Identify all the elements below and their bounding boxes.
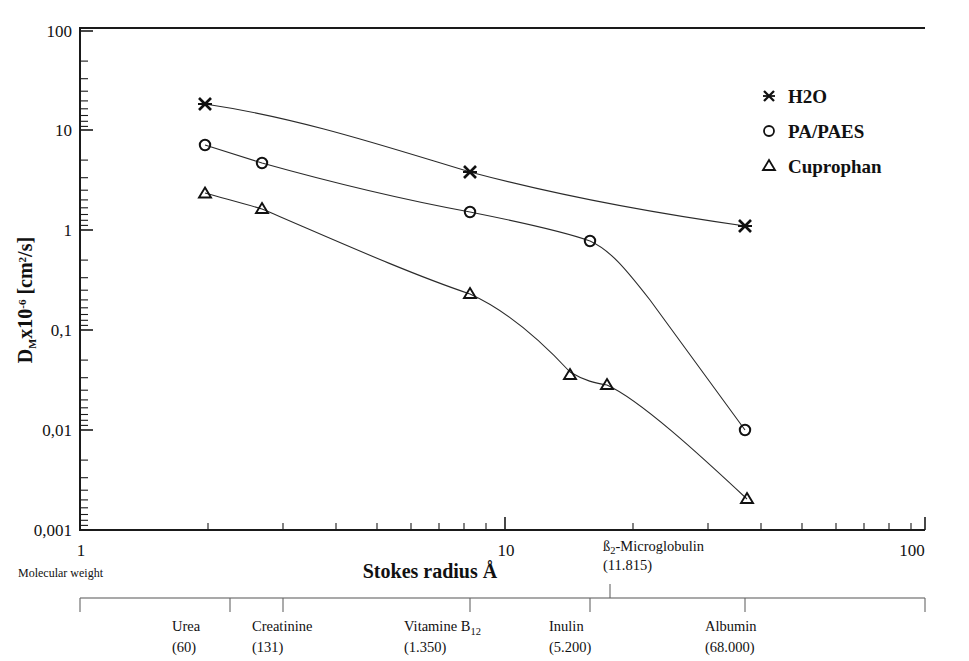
y-title-units: [cm: [14, 262, 36, 300]
molecule-mass-creatinine: (131): [252, 639, 284, 656]
x-axis-title: Stokes radius Å: [363, 560, 498, 582]
y-tick-label-0-01: 0,01: [42, 421, 72, 440]
vitb12-subscript: 12: [470, 626, 481, 637]
y-tick-label-0-1: 0,1: [51, 321, 72, 340]
y-title-units-end: /s]: [14, 237, 36, 258]
y-tick-label-10: 10: [55, 121, 72, 140]
diffusion-coefficient-chart: 100 10 1 0,1 0,01 0,001 DMx10-6 [cm2/s]: [0, 0, 969, 661]
molecule-mass-urea: (60): [172, 639, 196, 656]
y-tick-label-100: 100: [47, 22, 73, 41]
b2-rest: -Microglobulin: [616, 538, 705, 554]
y-tick-label-0-001: 0,001: [34, 521, 72, 540]
y-title-m-sub: M: [27, 339, 38, 349]
x-tick-label-1: 1: [77, 541, 86, 560]
x-tick-label-100: 100: [899, 541, 925, 560]
vitb12-name: Vitamine B: [404, 618, 470, 634]
legend-label-pa-paes: PA/PAES: [788, 121, 864, 142]
molecule-mass-vitamine-b12: (1.350): [404, 639, 446, 656]
molecule-name-albumin: Albumin: [705, 618, 757, 634]
y-title-d: D: [14, 349, 36, 363]
y-tick-label-1: 1: [64, 221, 73, 240]
molecule-mass-albumin: (68.000): [705, 639, 755, 656]
x-tick-label-10: 10: [498, 541, 515, 560]
molecule-name-creatinine: Creatinine: [252, 618, 312, 634]
molecular-weight-note: Molecular weight: [18, 566, 104, 580]
b2-microglobulin-name: ß2-Microglobulin: [603, 538, 705, 556]
molecule-mass-inulin: (5.200): [549, 639, 591, 656]
legend-label-h2o: H2O: [788, 86, 827, 107]
chart-figure: 100 10 1 0,1 0,01 0,001 DMx10-6 [cm2/s]: [0, 0, 969, 661]
b2-glyph: ß: [603, 538, 610, 554]
b2-microglobulin-mass: (11.815): [603, 557, 652, 574]
legend-label-cuprophan: Cuprophan: [788, 156, 882, 177]
y-title-x10: x10: [14, 309, 36, 339]
molecule-name-urea: Urea: [172, 618, 201, 634]
molecule-name-inulin: Inulin: [549, 618, 584, 634]
